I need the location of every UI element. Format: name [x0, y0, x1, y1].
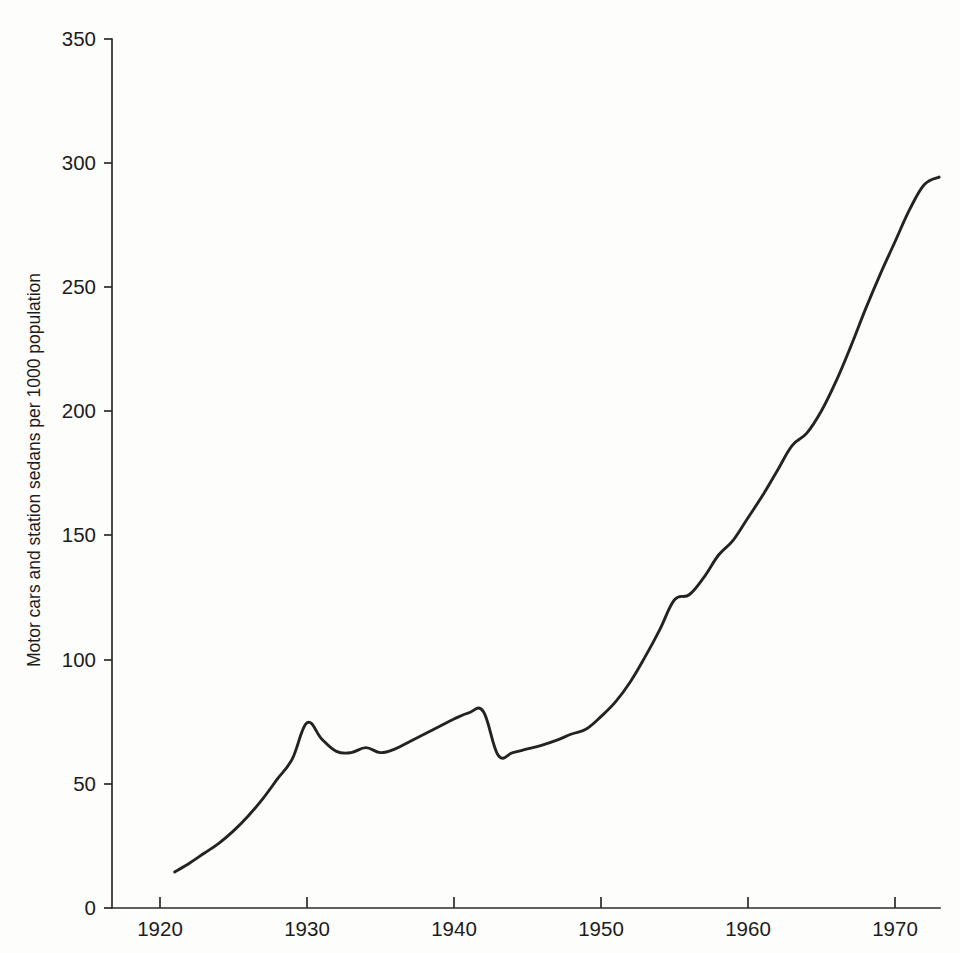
y-tick-label-50: 50	[73, 772, 96, 795]
y-tick-label-350: 350	[62, 27, 96, 50]
y-tick-label-group: 0 50 100 150 200 250 300 350	[62, 27, 96, 919]
y-tick-label-100: 100	[62, 648, 96, 671]
y-tick-label-200: 200	[62, 399, 96, 422]
x-tick-label-group: 1920 1930 1940 1950 1960 1970	[137, 917, 918, 940]
y-tick-label-250: 250	[62, 275, 96, 298]
y-tick-label-0: 0	[85, 896, 96, 919]
x-tick-label-1940: 1940	[431, 917, 477, 940]
chart-container: 0 50 100 150 200 250 300 350 1920 1930 1…	[0, 0, 960, 953]
line-chart: 0 50 100 150 200 250 300 350 1920 1930 1…	[0, 0, 960, 953]
x-tick-label-1960: 1960	[725, 917, 771, 940]
x-tick-group	[160, 897, 895, 908]
x-tick-label-1930: 1930	[284, 917, 330, 940]
axis-group	[112, 39, 940, 908]
y-axis-title: Motor cars and station sedans per 1000 p…	[24, 273, 44, 667]
data-series-line	[175, 177, 939, 872]
x-tick-label-1970: 1970	[872, 917, 918, 940]
x-tick-label-1920: 1920	[137, 917, 183, 940]
x-tick-label-1950: 1950	[578, 917, 624, 940]
y-tick-group	[104, 39, 112, 908]
y-tick-label-150: 150	[62, 523, 96, 546]
y-tick-label-300: 300	[62, 151, 96, 174]
